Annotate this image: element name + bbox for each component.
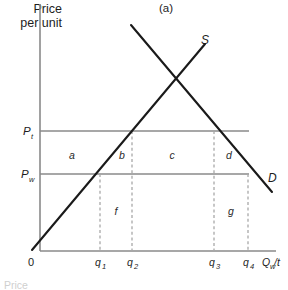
tick-q4-main: q (243, 256, 249, 268)
tariff-price-sub: t (31, 132, 34, 141)
tick-label-q1: q 1 (95, 256, 106, 271)
x-axis-title: Q w /t (262, 256, 281, 271)
tick-q1-sub: 1 (102, 262, 106, 271)
tick-q2-sub: 2 (133, 262, 139, 271)
x-axis-title-tail: /t (273, 256, 281, 268)
tariff-price-main: P (23, 125, 31, 137)
world-price-main: P (21, 168, 29, 180)
world-price-label: P w (21, 168, 35, 184)
world-price-sub: w (29, 175, 35, 184)
tariff-price-label: P t (23, 125, 34, 141)
region-label-a: a (69, 149, 75, 161)
demand-curve-label: D (268, 171, 277, 185)
tick-label-q4: q 4 (243, 256, 254, 271)
y-axis-title-line1: Price (34, 2, 63, 16)
region-label-g: g (228, 205, 234, 217)
origin-label: 0 (28, 256, 34, 268)
figure-container: Price per unit (a) S D P t P w 0 (0, 0, 288, 290)
tick-q3-sub: 3 (216, 262, 221, 271)
y-axis-title-line2: per unit (20, 16, 62, 30)
tick-label-q3: q 3 (209, 256, 221, 271)
supply-curve (32, 44, 205, 250)
tick-label-q2: q 2 (127, 256, 139, 271)
region-label-d: d (226, 149, 233, 161)
next-panel-ghost-text: Price (4, 280, 28, 290)
panel-label: (a) (159, 2, 173, 14)
supply-curve-label: S (201, 33, 209, 47)
region-label-f: f (115, 205, 119, 217)
region-label-b: b (119, 149, 125, 161)
region-label-c: c (169, 149, 175, 161)
tick-q4-sub: 4 (250, 262, 254, 271)
tick-q1-main: q (95, 256, 101, 268)
tick-q3-main: q (209, 256, 215, 268)
supply-demand-tariff-chart: Price per unit (a) S D P t P w 0 (0, 0, 288, 290)
tick-q2-main: q (127, 256, 133, 268)
x-axis-title-main: Q (262, 256, 270, 268)
